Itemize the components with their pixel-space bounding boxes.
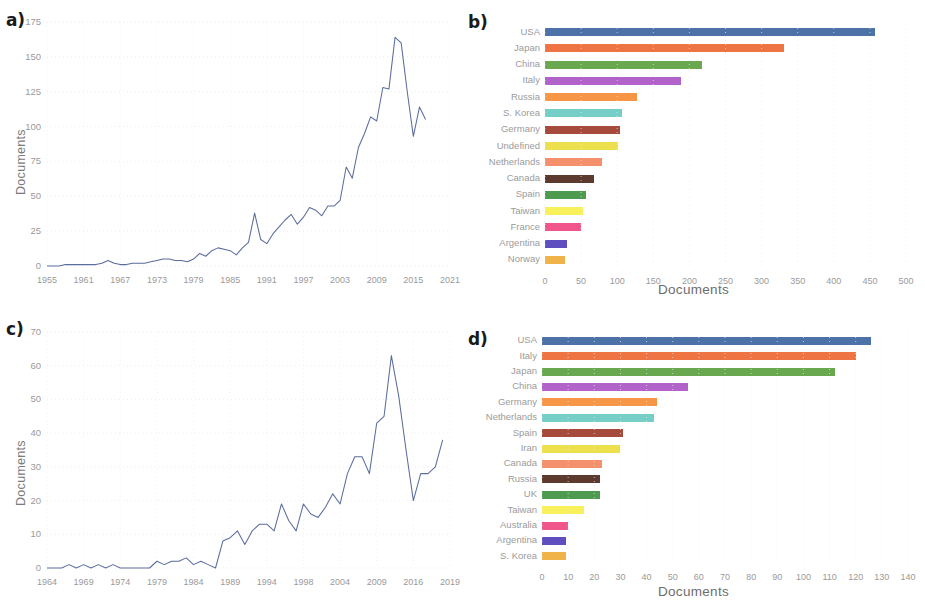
figure-container: a) Documents 0255075100125150175 1955196… xyxy=(0,0,925,602)
panel-c-plot-area xyxy=(0,301,462,602)
panel-a-plot-area xyxy=(0,0,462,301)
panel-c-line-chart: c) Documents 010203040506070 19641969197… xyxy=(0,301,462,602)
panel-d-gridlines xyxy=(462,301,925,602)
line-series-path xyxy=(47,37,426,266)
panel-a-line-chart: a) Documents 0255075100125150175 1955196… xyxy=(0,0,462,301)
panel-b-bar-chart: b) USAJapanChinaItalyRussiaS. KoreaGerma… xyxy=(462,0,925,301)
panel-b-gridlines xyxy=(462,0,925,301)
line-series-path xyxy=(47,356,443,568)
panel-d-bar-chart: d) USAItalyJapanChinaGermanyNetherlandsS… xyxy=(462,301,925,602)
